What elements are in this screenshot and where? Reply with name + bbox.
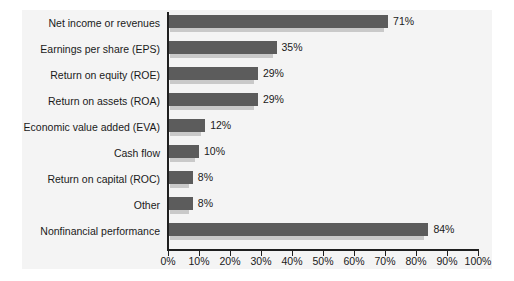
bar-chart-figure: Net income or revenuesEarnings per share… bbox=[0, 0, 514, 281]
bar-value-label: 35% bbox=[282, 39, 303, 55]
bar bbox=[168, 197, 193, 210]
bar bbox=[168, 223, 428, 236]
bar-value-label: 8% bbox=[198, 169, 213, 185]
bar-value-label: 29% bbox=[263, 65, 284, 81]
category-label: Earnings per share (EPS) bbox=[40, 36, 160, 62]
bar-row: 8% bbox=[168, 168, 478, 194]
category-label: Net income or revenues bbox=[49, 10, 160, 36]
bar bbox=[168, 119, 205, 132]
bar-row: 8% bbox=[168, 194, 478, 220]
bar-value-label: 71% bbox=[393, 13, 414, 29]
category-label: Nonfinancial performance bbox=[40, 218, 160, 244]
category-label: Return on equity (ROE) bbox=[50, 62, 160, 88]
bar-value-label: 10% bbox=[204, 143, 225, 159]
bar-row: 12% bbox=[168, 116, 478, 142]
bar-value-label: 12% bbox=[210, 117, 231, 133]
bar bbox=[168, 67, 258, 80]
category-label: Return on assets (ROA) bbox=[48, 88, 160, 114]
x-axis-tick-label: 100% bbox=[458, 255, 498, 267]
bar-row: 35% bbox=[168, 38, 478, 64]
y-axis-line bbox=[167, 12, 169, 250]
category-label: Cash flow bbox=[114, 140, 160, 166]
bar-row: 10% bbox=[168, 142, 478, 168]
category-label: Other bbox=[134, 192, 160, 218]
bar-value-label: 29% bbox=[263, 91, 284, 107]
category-axis: Net income or revenuesEarnings per share… bbox=[22, 10, 166, 247]
plot-area: 71%35%29%29%12%10%8%8%84% bbox=[168, 12, 478, 247]
bar-value-label: 8% bbox=[198, 195, 213, 211]
bar bbox=[168, 93, 258, 106]
bar bbox=[168, 41, 277, 54]
bar-row: 29% bbox=[168, 90, 478, 116]
category-label: Economic value added (EVA) bbox=[24, 114, 160, 140]
bar-row: 71% bbox=[168, 12, 478, 38]
bar bbox=[168, 145, 199, 158]
bar bbox=[168, 15, 388, 28]
bar-row: 84% bbox=[168, 220, 478, 246]
category-label: Return on capital (ROC) bbox=[47, 166, 160, 192]
bar-row: 29% bbox=[168, 64, 478, 90]
bar bbox=[168, 171, 193, 184]
bar-value-label: 84% bbox=[433, 221, 454, 237]
